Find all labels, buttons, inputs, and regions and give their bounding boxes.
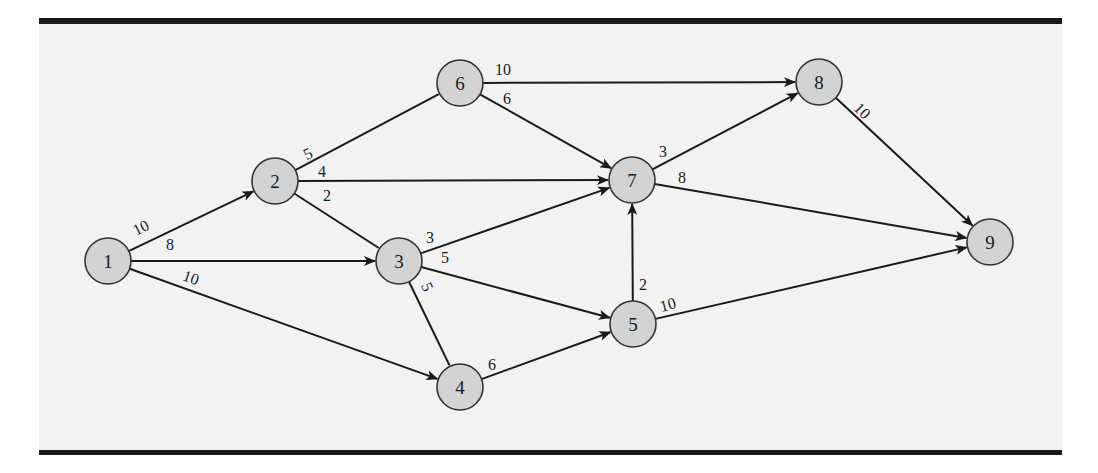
node-label: 1 (103, 251, 113, 272)
node-6: 6 (437, 60, 483, 106)
top-rule (39, 18, 1062, 24)
edge-weight-2-7: 4 (318, 163, 326, 180)
edge-weight-3-7: 3 (426, 229, 434, 246)
node-2: 2 (252, 158, 298, 204)
edge-weight-1-3: 8 (166, 236, 174, 253)
node-label: 9 (985, 232, 995, 253)
node-label: 6 (455, 73, 465, 94)
node-7: 7 (609, 157, 655, 203)
edge-weight-7-9: 8 (678, 169, 686, 186)
figure-background-panel (39, 24, 1062, 450)
node-3: 3 (376, 238, 422, 284)
node-label: 8 (814, 72, 824, 93)
edge-6-8 (483, 82, 795, 83)
node-5: 5 (610, 301, 656, 347)
edge-weight-6-8: 10 (495, 61, 511, 78)
edge-5-7 (632, 204, 633, 301)
node-label: 4 (455, 377, 465, 398)
bottom-rule (39, 450, 1062, 455)
node-label: 3 (394, 251, 404, 272)
node-label: 5 (628, 314, 638, 335)
node-8: 8 (796, 59, 842, 105)
node-9: 9 (967, 219, 1013, 265)
network-diagram: 1081054235562101063810 123456789 (0, 0, 1098, 473)
edge-weight-6-7: 6 (503, 90, 511, 107)
node-label: 7 (627, 170, 637, 191)
node-label: 2 (270, 171, 280, 192)
edge-2-7 (298, 180, 608, 181)
node-1: 1 (85, 238, 131, 284)
edge-weight-4-5: 6 (488, 356, 496, 373)
edge-weight-7-8: 3 (659, 143, 667, 160)
network-diagram-figure: 1081054235562101063810 123456789 (0, 0, 1098, 473)
node-4: 4 (437, 364, 483, 410)
edge-weight-3-5: 5 (441, 249, 449, 266)
edge-weight-5-7: 2 (639, 276, 647, 293)
edge-weight-2-3: 2 (323, 187, 331, 204)
